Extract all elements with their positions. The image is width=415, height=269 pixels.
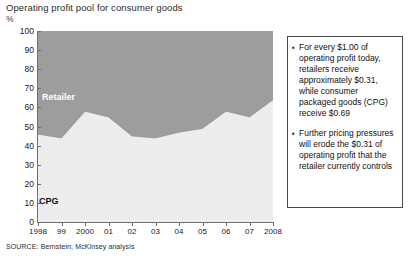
y-axis-tick-label: 80 <box>4 65 34 74</box>
x-axis-tick <box>85 222 86 226</box>
x-axis-tick <box>156 222 157 226</box>
x-axis-tick <box>226 222 227 226</box>
y-axis-tick <box>37 50 41 51</box>
x-axis-tick-label: 02 <box>128 227 137 236</box>
y-axis-tick <box>37 203 41 204</box>
x-axis-tick-label: 04 <box>175 227 184 236</box>
x-axis-tick <box>62 222 63 226</box>
y-axis-tick <box>37 146 41 147</box>
y-axis-tick-label: 10 <box>4 199 34 208</box>
y-axis-tick <box>37 165 41 166</box>
y-axis-tick <box>37 127 41 128</box>
y-axis-tick-label: 30 <box>4 160 34 169</box>
axis-unit-label: % <box>6 14 183 24</box>
x-axis-tick-label: 99 <box>57 227 66 236</box>
x-axis-tick-label: 06 <box>222 227 231 236</box>
plot-frame <box>37 31 273 223</box>
callout-bullet-text: Further pricing pressures will erode the… <box>299 128 397 172</box>
y-axis-tick-label: 60 <box>4 103 34 112</box>
chart-region: 0102030405060708090100 Retailer CPG 1998… <box>0 26 280 231</box>
title-block: Operating profit pool for consumer goods… <box>6 2 183 24</box>
y-axis-tick-label: 70 <box>4 84 34 93</box>
callout-bullet: ▪ Further pricing pressures will erode t… <box>292 128 397 172</box>
callout-bullet: ▪ For every $1.00 of operating profit to… <box>292 42 397 119</box>
x-axis-tick <box>273 222 274 226</box>
stacked-area-plot <box>38 31 273 222</box>
callout-bullet-text: For every $1.00 of operating profit toda… <box>299 42 397 119</box>
y-axis-tick <box>37 69 41 70</box>
x-axis-tick-label: 1998 <box>29 227 47 236</box>
y-axis-tick-label: 50 <box>4 122 34 131</box>
x-axis-tick <box>203 222 204 226</box>
y-axis-tick-label: 100 <box>4 27 34 36</box>
callout-box: ▪ For every $1.00 of operating profit to… <box>287 36 403 208</box>
x-axis-tick <box>109 222 110 226</box>
y-axis-tick-label: 90 <box>4 46 34 55</box>
series-label-cpg: CPG <box>39 196 59 206</box>
y-axis-tick <box>37 107 41 108</box>
x-axis-tick-label: 03 <box>151 227 160 236</box>
bullet-icon: ▪ <box>292 42 299 53</box>
y-axis-tick <box>37 88 41 89</box>
source-note: SOURCE: Bernstein; McKinsey analysis <box>6 243 134 250</box>
x-axis-tick <box>132 222 133 226</box>
y-axis-tick-label: 40 <box>4 141 34 150</box>
y-axis-tick-label: 0 <box>4 218 34 227</box>
y-axis-tick <box>37 31 41 32</box>
y-axis-tick-label: 20 <box>4 180 34 189</box>
x-axis-tick-label: 05 <box>198 227 207 236</box>
x-axis-tick <box>38 222 39 226</box>
page-title: Operating profit pool for consumer goods <box>6 2 183 13</box>
x-axis-tick-label: 2000 <box>76 227 94 236</box>
x-axis-tick <box>179 222 180 226</box>
bullet-icon: ▪ <box>292 128 299 139</box>
x-axis-tick-label: 07 <box>245 227 254 236</box>
x-axis-tick-label: 01 <box>104 227 113 236</box>
x-axis-tick <box>250 222 251 226</box>
x-axis-tick-label: 2008 <box>264 227 282 236</box>
y-axis: 0102030405060708090100 <box>0 31 34 222</box>
series-label-retailer: Retailer <box>42 92 75 102</box>
y-axis-tick <box>37 184 41 185</box>
